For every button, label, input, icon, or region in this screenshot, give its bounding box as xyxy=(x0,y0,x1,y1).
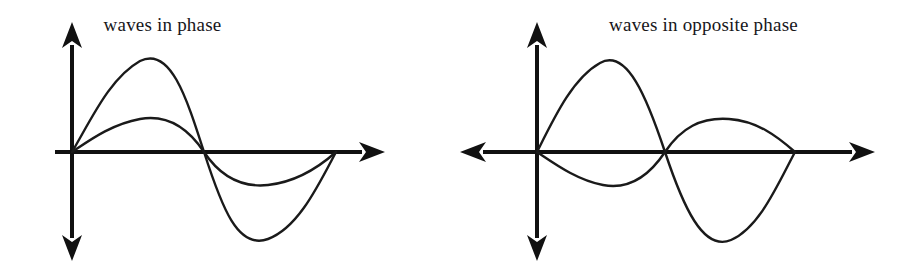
x-axis-right-arrowhead xyxy=(359,142,385,162)
y-axis-up-arrowhead xyxy=(527,22,547,48)
y-axis-down-arrowhead xyxy=(527,235,547,261)
x-axis-right-arrowhead xyxy=(849,142,875,162)
panel-waves-in-opposite-phase: waves in opposite phase xyxy=(455,0,910,272)
plot-in-phase xyxy=(0,0,455,272)
panel-waves-in-phase: waves in phase xyxy=(0,0,455,272)
plot-opposite-phase xyxy=(455,0,910,272)
y-axis-down-arrowhead xyxy=(62,235,82,261)
x-axis-left-arrowhead xyxy=(460,142,486,162)
y-axis-up-arrowhead xyxy=(62,22,82,48)
wave-phase-figure: waves in phase waves in opposite phase xyxy=(0,0,910,272)
wave-large-amplitude-in-phase xyxy=(72,58,336,240)
